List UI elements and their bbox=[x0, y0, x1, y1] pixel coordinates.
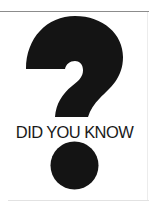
question-mark-dot bbox=[51, 142, 99, 190]
question-mark-hook bbox=[26, 16, 123, 117]
question-mark-icon bbox=[0, 0, 149, 203]
did-you-know-graphic: DID YOU KNOW bbox=[0, 0, 149, 203]
caption-text: DID YOU KNOW bbox=[2, 124, 147, 141]
